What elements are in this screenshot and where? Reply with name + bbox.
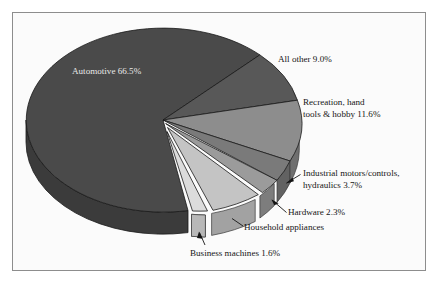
slice-label-hardware: Hardware 2.3% [288, 207, 345, 217]
slice-label-industrial-motors-line1: Industrial motors/controls, [303, 168, 399, 178]
pie-chart-figure: Automotive 66.5% All other 9.0% Recreati… [0, 0, 443, 287]
slice-label-household-appliances: Household appliances [244, 222, 325, 232]
slice-label-recreation-line1: Recreation, hand [303, 97, 365, 107]
slice-label-recreation-line2: tools & hobby 11.6% [303, 109, 381, 119]
slice-label-all-other: All other 9.0% [278, 54, 332, 64]
slice-label-automotive: Automotive 66.5% [72, 66, 142, 76]
slice-label-business-machines: Business machines 1.6% [190, 248, 281, 258]
pie-chart-svg: Automotive 66.5% All other 9.0% Recreati… [0, 0, 443, 287]
slice-label-industrial-motors-line2: hydraulics 3.7% [303, 180, 363, 190]
